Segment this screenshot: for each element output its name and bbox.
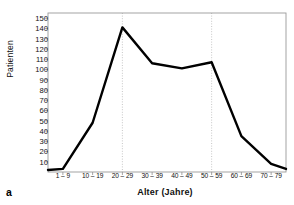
- y-tick-label: 100: [35, 65, 48, 74]
- plot-frame: [48, 13, 286, 172]
- x-tick-label: 20 – 29: [112, 172, 133, 179]
- y-tick-label: 20: [40, 147, 48, 156]
- y-tick-label: 50: [40, 116, 48, 125]
- y-tick-label: 140: [35, 24, 48, 33]
- x-tick-label: 1 – 9: [56, 172, 70, 179]
- panel-letter-label: a: [6, 186, 12, 198]
- y-tick-label: 120: [35, 44, 48, 53]
- x-axis-tick-labels: 1 – 910 – 1920 – 2930 – 3940 – 4950 – 59…: [0, 172, 294, 186]
- figure-panel: Patienten 102030405060708090100110120130…: [0, 0, 294, 205]
- x-tick-label: 60 – 69: [231, 172, 252, 179]
- y-tick-label: 40: [40, 126, 48, 135]
- x-tick-label: 30 – 39: [141, 172, 162, 179]
- y-tick-label: 30: [40, 137, 48, 146]
- x-tick-label: 50 – 59: [201, 172, 222, 179]
- y-tick-label: 60: [40, 106, 48, 115]
- y-tick-label: 70: [40, 96, 48, 105]
- x-tick-label: 70 – 79: [260, 172, 281, 179]
- y-tick-label: 110: [36, 55, 48, 64]
- y-tick-label: 10: [40, 157, 48, 166]
- x-axis-title: Alter (Jahre): [40, 187, 290, 197]
- y-tick-label: 80: [40, 85, 48, 94]
- y-tick-label: 130: [35, 34, 48, 43]
- data-series-line: [48, 27, 286, 170]
- x-tick-label: 10 – 19: [82, 172, 103, 179]
- y-tick-label: 150: [35, 14, 48, 23]
- y-tick-label: 90: [40, 75, 48, 84]
- x-tick-label: 40 – 49: [171, 172, 192, 179]
- gridlines: [122, 13, 211, 172]
